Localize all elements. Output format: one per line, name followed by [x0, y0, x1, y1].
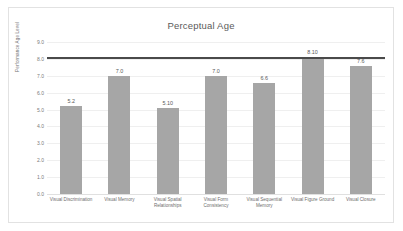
y-axis-tick-label: 0.0: [37, 191, 44, 197]
bar-value-label: 8.10: [307, 49, 318, 55]
bar-value-label: 5.10: [162, 100, 173, 106]
x-axis-category-label: Visual Memory: [95, 197, 143, 209]
chart-container: Perceptual Age Performance Age Level 9.0…: [8, 7, 394, 223]
y-axis-tick-label: 8.0: [37, 56, 44, 62]
y-axis-tick-label: 7.0: [37, 73, 44, 79]
bar-slot: 7.6: [337, 42, 385, 194]
bar[interactable]: 5.10: [157, 108, 179, 194]
bar-value-label: 7.0: [212, 68, 220, 74]
y-axis-tick-label: 3.0: [37, 140, 44, 146]
bars-layer: 5.27.05.107.06.68.107.6: [47, 42, 385, 194]
bar-value-label: 6.6: [261, 75, 269, 81]
bar-slot: 7.0: [192, 42, 240, 194]
bar-slot: 5.2: [47, 42, 95, 194]
x-axis-category-label: Visual Spatial Relationships: [144, 197, 192, 209]
bar-value-label: 7.0: [116, 68, 124, 74]
bar-value-label: 5.2: [67, 98, 75, 104]
bar[interactable]: 6.6: [253, 83, 275, 194]
reference-line: [47, 57, 385, 58]
bar-slot: 5.10: [144, 42, 192, 194]
y-axis-tick-label: 6.0: [37, 90, 44, 96]
y-axis-tick-label: 1.0: [37, 174, 44, 180]
x-axis-category-label: Visual Closure: [337, 197, 385, 209]
y-axis-tick-label: 9.0: [37, 39, 44, 45]
x-axis-category-label: Visual Figure Ground: [288, 197, 336, 209]
bar-slot: 6.6: [240, 42, 288, 194]
y-axis-tick-label: 5.0: [37, 107, 44, 113]
bar[interactable]: 8.10: [302, 57, 324, 194]
y-axis-title: Performance Age Level: [15, 4, 25, 90]
plot-area: 9.08.07.06.05.04.03.02.01.00.0 5.27.05.1…: [47, 42, 385, 194]
bar-slot: 7.0: [95, 42, 143, 194]
x-axis-labels: Visual DiscriminationVisual MemoryVisual…: [47, 197, 385, 209]
x-axis-category-label: Visual Form Consistency: [192, 197, 240, 209]
x-axis-category-label: Visual Discrimination: [47, 197, 95, 209]
bar[interactable]: 7.6: [350, 66, 372, 194]
y-axis-tick-label: 4.0: [37, 123, 44, 129]
bar[interactable]: 5.2: [60, 106, 82, 194]
gridline: 0.0: [47, 194, 385, 195]
bar[interactable]: 7.0: [205, 76, 227, 194]
bar-slot: 8.10: [288, 42, 336, 194]
bar[interactable]: 7.0: [108, 76, 130, 194]
chart-title: Perceptual Age: [9, 20, 393, 31]
x-axis-category-label: Visual Sequential Memory: [240, 197, 288, 209]
y-axis-tick-label: 2.0: [37, 157, 44, 163]
